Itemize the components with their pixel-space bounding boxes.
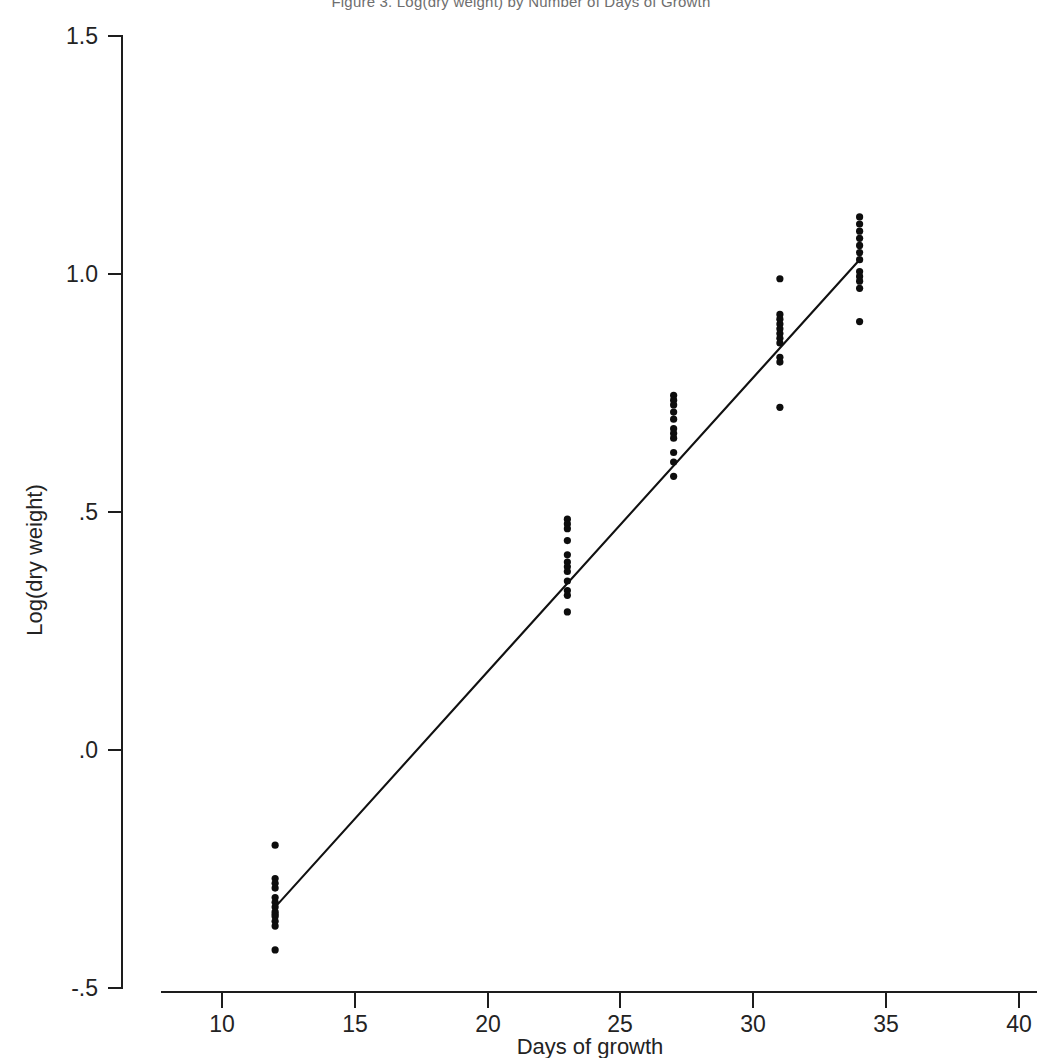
data-point (670, 401, 677, 408)
data-point (856, 213, 863, 220)
x-tick-label-15: 15 (342, 1011, 368, 1037)
data-point (670, 435, 677, 442)
data-point (776, 275, 783, 282)
y-tick-label-0.5: .5 (79, 499, 98, 525)
data-point (670, 473, 677, 480)
data-point (670, 458, 677, 465)
data-point (856, 278, 863, 285)
data-point (856, 256, 863, 263)
y-axis: 1.5 1.0 .5 .0 -.5 Log(dry weight) (22, 23, 122, 1001)
x-tick-label-30: 30 (740, 1011, 766, 1037)
scatter-plot: 1.5 1.0 .5 .0 -.5 Log(dry weight) 10 15 … (0, 0, 1042, 1058)
data-point (564, 551, 571, 558)
data-point (670, 449, 677, 456)
data-point (564, 577, 571, 584)
data-point (272, 946, 279, 953)
data-point (856, 285, 863, 292)
y-tick-label-1.5: 1.5 (66, 23, 98, 49)
data-point (856, 235, 863, 242)
y-axis-title: Log(dry weight) (22, 484, 47, 636)
x-tick-label-10: 10 (209, 1011, 235, 1037)
data-points-group (272, 213, 864, 953)
data-point (670, 416, 677, 423)
x-tick-label-35: 35 (873, 1011, 899, 1037)
data-point (776, 339, 783, 346)
data-point (776, 358, 783, 365)
chart-page: Figure 3. Log(dry weight) by Number of D… (0, 0, 1042, 1058)
data-point (856, 318, 863, 325)
x-axis: 10 15 20 25 30 35 40 Days of growth (162, 992, 1036, 1058)
data-point (272, 923, 279, 930)
data-point (272, 884, 279, 891)
y-tick-label-0.0: .0 (79, 737, 98, 763)
y-tick-label-1.0: 1.0 (66, 261, 98, 287)
data-point (776, 404, 783, 411)
x-tick-label-20: 20 (475, 1011, 501, 1037)
data-point (564, 568, 571, 575)
data-point (856, 220, 863, 227)
data-point (564, 592, 571, 599)
data-point (856, 249, 863, 256)
x-tick-label-40: 40 (1006, 1011, 1032, 1037)
x-axis-title: Days of growth (517, 1034, 664, 1058)
data-point (564, 525, 571, 532)
data-point (564, 537, 571, 544)
data-point (856, 242, 863, 249)
data-point (564, 608, 571, 615)
data-point (272, 842, 279, 849)
data-point (670, 408, 677, 415)
data-point (856, 228, 863, 235)
y-tick-label--0.5: -.5 (71, 975, 98, 1001)
